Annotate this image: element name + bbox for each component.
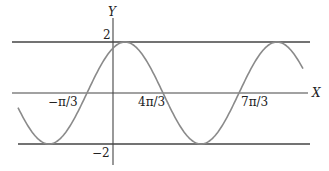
tick-label-7pi-3: 7π/3 (241, 96, 268, 108)
tick-label-neg-pi-3: −π/3 (48, 96, 78, 108)
y-max-label: 2 (103, 29, 111, 41)
y-axis-label: Y (108, 6, 116, 18)
tick-label-4pi-3: 4π/3 (138, 96, 165, 108)
x-axis-label: X (312, 87, 321, 99)
sine-chart (0, 0, 329, 171)
y-min-label: −2 (92, 147, 110, 159)
